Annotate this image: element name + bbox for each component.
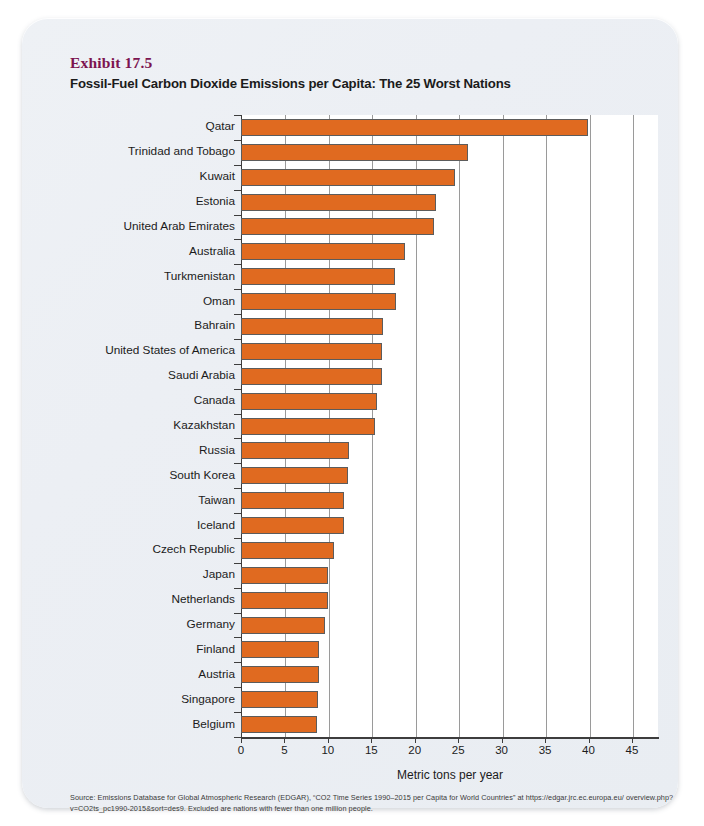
category-label: Oman [0,294,235,308]
x-gridline [546,115,547,737]
y-axis-tick [234,438,241,439]
x-axis-tick [589,737,590,743]
source-note: Source: Emissions Database for Global At… [70,792,678,815]
source-line-1: Source: Emissions Database for Global At… [70,793,624,802]
bar [241,716,317,733]
y-axis-tick [234,712,241,713]
y-axis-tick [234,613,241,614]
category-label: Canada [0,393,235,407]
bar [241,666,319,683]
x-axis-title: Metric tons per year [241,768,659,782]
bar [241,144,468,161]
bar [241,194,436,211]
x-axis-line [241,737,659,739]
y-axis-tick [234,215,241,216]
page-canvas: Exhibit 17.5 Fossil-Fuel Carbon Dioxide … [0,0,704,826]
x-axis-tick [284,737,285,743]
category-label: United Arab Emirates [0,219,235,233]
x-axis-tick [371,737,372,743]
bar [241,492,344,509]
category-label: Austria [0,667,235,681]
bar [241,592,328,609]
category-label: Czech Republic [0,542,235,556]
x-axis-tick-label: 10 [308,744,348,756]
y-axis-tick [234,190,241,191]
category-label: Germany [0,617,235,631]
y-axis-tick [234,737,241,738]
x-axis-tick [545,737,546,743]
bar [241,567,328,584]
y-axis-tick [234,165,241,166]
bar [241,641,319,658]
x-axis-tick-label: 5 [264,744,304,756]
exhibit-card: Exhibit 17.5 Fossil-Fuel Carbon Dioxide … [22,18,678,808]
y-axis-tick [234,488,241,489]
category-label: Russia [0,443,235,457]
y-axis-tick [234,538,241,539]
category-label: Australia [0,244,235,258]
x-gridline [503,115,504,737]
category-label: Bahrain [0,318,235,332]
exhibit-number: Exhibit 17.5 [70,54,153,72]
exhibit-title: Fossil-Fuel Carbon Dioxide Emissions per… [70,76,511,91]
bar [241,243,405,260]
x-axis-tick [241,737,242,743]
category-label: Trinidad and Tobago [0,144,235,158]
category-label: South Korea [0,468,235,482]
x-axis-tick-label: 40 [569,744,609,756]
bar [241,119,588,136]
y-axis-tick [234,364,241,365]
y-axis-tick [234,463,241,464]
y-axis-tick [234,588,241,589]
x-axis-tick-label: 25 [438,744,478,756]
y-axis-tick [234,115,241,116]
x-axis-tick-label: 30 [482,744,522,756]
y-axis-tick [234,662,241,663]
bar-chart: Metric tons per year 051015202530354045Q… [66,113,666,773]
bar [241,542,334,559]
bar [241,691,318,708]
category-label: Qatar [0,119,235,133]
bar [241,368,382,385]
category-label: Japan [0,567,235,581]
bar [241,393,377,410]
x-gridline [633,115,634,737]
y-axis-tick [234,513,241,514]
x-axis-tick [458,737,459,743]
category-label: Taiwan [0,493,235,507]
x-axis-tick-label: 15 [351,744,391,756]
bar [241,318,383,335]
y-axis-tick [234,314,241,315]
y-axis-tick [234,687,241,688]
x-axis-tick [502,737,503,743]
x-axis-tick [632,737,633,743]
x-axis-tick-label: 20 [395,744,435,756]
bar [241,442,349,459]
category-label: Estonia [0,194,235,208]
bar [241,293,396,310]
y-axis-tick [234,339,241,340]
x-axis-tick [328,737,329,743]
y-axis-tick [234,637,241,638]
x-axis-tick [415,737,416,743]
y-axis-tick [234,140,241,141]
y-axis-tick [234,389,241,390]
category-label: Kuwait [0,169,235,183]
bar [241,418,375,435]
category-label: Singapore [0,692,235,706]
bar [241,218,434,235]
x-axis-tick-label: 35 [525,744,565,756]
bar [241,617,325,634]
x-gridline [459,115,460,737]
bar [241,169,455,186]
bar [241,467,348,484]
bar [241,268,395,285]
x-axis-tick-label: 0 [221,744,261,756]
bar [241,343,382,360]
category-label: Iceland [0,518,235,532]
bar [241,517,344,534]
category-label: United States of America [0,343,235,357]
y-axis-tick [234,563,241,564]
category-label: Saudi Arabia [0,368,235,382]
category-label: Belgium [0,717,235,731]
